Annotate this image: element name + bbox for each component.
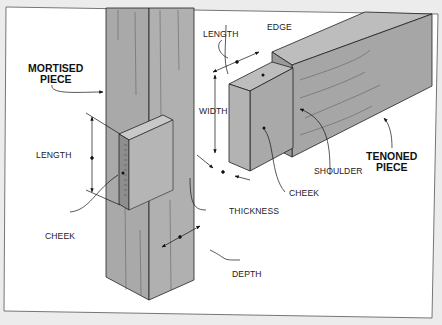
label-depth: DEPTH <box>232 269 262 279</box>
label-mortised-piece-2: PIECE <box>40 73 72 85</box>
mortise-tenon-diagram: MORTISED PIECE LENGTH CHEEK DEPTH LENGTH… <box>0 0 442 325</box>
label-mortise-cheek: CHEEK <box>45 231 75 241</box>
label-tenon-cheek: CHEEK <box>289 188 319 198</box>
label-shoulder: SHOULDER <box>314 166 363 176</box>
mortised-piece <box>106 8 194 300</box>
label-tenoned-piece-2: PIECE <box>376 161 408 173</box>
label-tenon-length: LENGTH <box>203 29 238 39</box>
label-thickness: THICKNESS <box>229 206 279 216</box>
label-width: WIDTH <box>199 106 228 116</box>
label-mortise-length: LENGTH <box>36 150 71 160</box>
label-edge: EDGE <box>267 22 292 32</box>
